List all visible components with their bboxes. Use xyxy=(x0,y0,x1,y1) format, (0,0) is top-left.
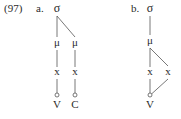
diagram-b-root-node xyxy=(148,93,152,97)
diagram-b-slot-2-link xyxy=(152,79,169,94)
diagram-a-segment-2: C xyxy=(71,98,78,110)
diagram-b-mora: μ xyxy=(147,34,153,46)
diagram-b-slot-2: x xyxy=(165,65,171,77)
prosodic-structure-figure: (97) a. σ μ μ x x V C b. σ μ x x V xyxy=(0,0,181,119)
example-number: (97) xyxy=(4,2,23,15)
diagram-a-root-node-1 xyxy=(55,93,59,97)
diagram-a-syllable-node: σ xyxy=(54,1,61,15)
diagram-b-segment: V xyxy=(146,98,154,110)
diagram-a-root-node-2 xyxy=(73,93,77,97)
diagram-a-slot-1: x xyxy=(54,65,60,77)
diagram-b-syllable-node: σ xyxy=(147,1,154,15)
diagram-a-mora-1: μ xyxy=(54,36,60,48)
diagram-a-slot-2: x xyxy=(72,65,78,77)
diagram-b: b. σ μ x x V xyxy=(131,1,171,110)
diagram-a-label: a. xyxy=(36,2,44,14)
diagram-a-segment-1: V xyxy=(53,98,61,110)
diagram-b-slot-1: x xyxy=(147,65,153,77)
diagram-b-mora-link-right xyxy=(150,48,168,66)
diagram-b-label: b. xyxy=(131,2,140,14)
diagram-a-branch-right xyxy=(57,16,75,37)
diagram-a-mora-2: μ xyxy=(72,36,78,48)
diagram-a: a. σ μ μ x x V C xyxy=(36,1,79,110)
